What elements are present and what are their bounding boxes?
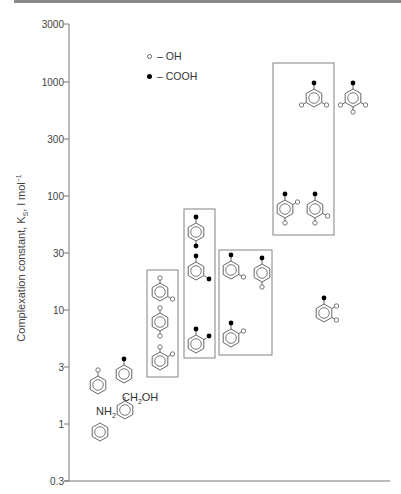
2,4-dihydroxybenzoic-acid-molecule — [277, 192, 300, 226]
3,5-dihydroxybenzoic-acid-molecule — [299, 81, 328, 108]
catechol-molecule — [152, 345, 175, 370]
4-hydroxybenzoic-acid-molecule — [254, 256, 270, 290]
benzoic-acid-molecule — [116, 357, 132, 383]
resorcinol-molecule — [152, 276, 175, 301]
plot-area — [0, 0, 401, 494]
ch2oh-label: CH2OH — [122, 391, 158, 405]
hydroquinone-molecule — [152, 306, 168, 338]
3-hydroxybenzoic-acid-molecule — [223, 253, 246, 280]
isophthalic-acid-molecule — [188, 254, 211, 282]
salicylic-acid-molecule — [223, 321, 246, 347]
nh2-label: NH2 — [96, 405, 116, 419]
group-boxes — [147, 63, 334, 377]
aniline-molecule — [92, 423, 108, 441]
y-axis — [64, 24, 69, 481]
phenol-molecule — [90, 368, 106, 394]
terephthalic-acid-molecule — [188, 215, 204, 249]
phthalic-acid-molecule — [188, 327, 211, 353]
gallic-acid-molecule — [338, 81, 367, 115]
2,3-dihydroxybenzoic-acid-molecule — [316, 296, 339, 323]
3,4-dihydroxybenzoic-acid-molecule — [307, 192, 330, 226]
